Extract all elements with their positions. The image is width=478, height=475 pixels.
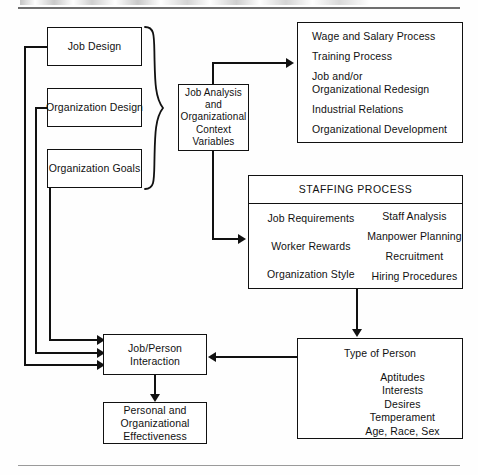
connector-job-person-down xyxy=(154,375,156,395)
node-organization-design-label: Organization Design xyxy=(46,101,143,114)
staffing-output-4: Hiring Procedures xyxy=(367,270,462,283)
staffing-input-2: Worker Rewards xyxy=(261,240,361,253)
page-top-rule xyxy=(18,7,460,9)
staffing-output-1: Staff Analysis xyxy=(367,210,462,223)
type-of-person-item-4: Temperament xyxy=(343,411,462,424)
node-effectiveness-line-3: Effectiveness xyxy=(123,430,187,443)
type-of-person-list: Aptitudes Interests Desires Temperament … xyxy=(298,360,462,438)
connector-job-design-down xyxy=(24,46,26,366)
node-job-design[interactable]: Job Design xyxy=(47,27,142,66)
diagram-canvas: Job Design Organization Design Organizat… xyxy=(0,0,478,475)
node-effectiveness-line-2: Organizational xyxy=(120,417,189,430)
node-effectiveness[interactable]: Personal and Organizational Effectivenes… xyxy=(103,402,207,444)
hr-process-item-3a: Job and/or xyxy=(312,70,363,83)
type-of-person-item-1: Aptitudes xyxy=(343,371,462,384)
type-of-person-item-2: Interests xyxy=(343,384,462,397)
type-of-person-title: Type of Person xyxy=(298,339,462,360)
node-job-person-line-2: Interaction xyxy=(130,355,180,368)
connector-type-of-person-to-job-person xyxy=(216,356,298,358)
node-job-person-line-1: Job/Person xyxy=(128,342,182,355)
node-job-person-interaction[interactable]: Job/Person Interaction xyxy=(103,334,207,375)
type-of-person-item-3: Desires xyxy=(343,398,462,411)
node-effectiveness-line-1: Personal and xyxy=(123,404,186,417)
connector-org-goals-down xyxy=(49,188,51,341)
node-job-analysis-line-3: Organizational xyxy=(181,111,247,123)
staffing-outputs-column: Staff Analysis Manpower Planning Recruit… xyxy=(361,204,462,289)
arrowhead-to-effectiveness xyxy=(150,394,160,402)
node-organization-design[interactable]: Organization Design xyxy=(47,88,142,127)
hr-process-item-2: Training Process xyxy=(312,50,392,63)
staffing-output-2: Manpower Planning xyxy=(367,230,462,243)
connector-org-design-down xyxy=(35,107,37,354)
connector-org-design-in xyxy=(35,352,106,354)
staffing-input-3: Organization Style xyxy=(261,268,361,281)
staffing-process-title: STAFFING PROCESS xyxy=(249,176,462,204)
connector-staffing-down xyxy=(356,289,358,330)
node-job-analysis-line-2: and xyxy=(205,99,222,111)
arrowhead-to-staffing xyxy=(238,234,246,244)
node-staffing-process[interactable]: STAFFING PROCESS Job Requirements Worker… xyxy=(248,175,463,289)
staffing-process-body: Job Requirements Worker Rewards Organiza… xyxy=(249,204,462,289)
node-job-design-label: Job Design xyxy=(68,40,122,53)
connector-job-analysis-down xyxy=(212,150,214,240)
hr-process-item-1: Wage and Salary Process xyxy=(312,30,435,43)
connector-job-analysis-to-staffing xyxy=(212,238,240,240)
connector-job-analysis-to-hr xyxy=(212,62,288,64)
type-of-person-item-5: Age, Race, Sex xyxy=(343,425,462,438)
node-job-analysis-line-1: Job Analysis xyxy=(185,87,242,99)
connector-job-design-out xyxy=(24,46,48,48)
staffing-output-3: Recruitment xyxy=(367,250,462,263)
staffing-input-1: Job Requirements xyxy=(261,212,361,225)
hr-process-item-4: Industrial Relations xyxy=(312,103,403,116)
node-hr-processes[interactable]: Wage and Salary Process Training Process… xyxy=(297,22,463,143)
node-organization-goals[interactable]: Organization Goals xyxy=(47,149,142,188)
brace-left-group xyxy=(142,24,168,192)
arrowhead-to-job-person-right xyxy=(208,352,216,362)
connector-job-design-in xyxy=(24,364,106,366)
node-organization-goals-label: Organization Goals xyxy=(49,162,141,175)
page-header-text-fragment xyxy=(20,0,400,5)
arrowhead-to-type-of-person xyxy=(352,329,362,337)
node-type-of-person[interactable]: Type of Person Aptitudes Interests Desir… xyxy=(297,338,463,439)
staffing-inputs-column: Job Requirements Worker Rewards Organiza… xyxy=(249,204,361,289)
node-job-analysis[interactable]: Job Analysis and Organizational Context … xyxy=(178,84,249,151)
node-job-analysis-line-5: Variables xyxy=(193,136,235,148)
connector-job-analysis-up xyxy=(212,62,214,86)
node-job-analysis-line-4: Context xyxy=(196,124,231,136)
hr-process-item-5: Organizational Development xyxy=(312,123,447,136)
arrowhead-to-hr-processes xyxy=(286,58,294,68)
page-bottom-rule xyxy=(18,465,460,466)
hr-process-item-3b: Organizational Redesign xyxy=(312,83,429,96)
